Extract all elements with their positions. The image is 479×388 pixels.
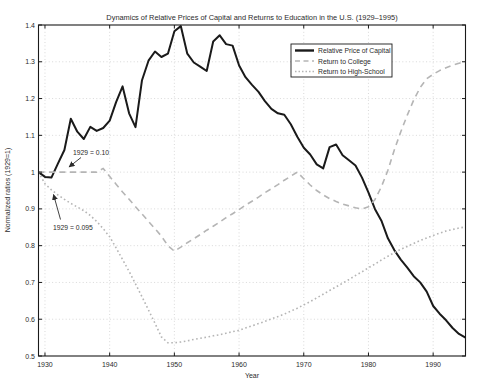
y-axis-label: Normalized ratios (1929=1) bbox=[4, 148, 12, 233]
tick-layer: 19301940195019601970198019900.50.60.70.8… bbox=[25, 22, 465, 368]
series-line-2-return-to-high-school bbox=[39, 172, 466, 343]
plot-border bbox=[39, 25, 466, 356]
y-tick-label-0.7: 0.7 bbox=[25, 279, 35, 286]
series-layer bbox=[39, 26, 466, 343]
annotation-text-college: 1929 = 0.10 bbox=[73, 149, 109, 156]
annotation-text-highschool: 1929 = 0.095 bbox=[53, 224, 93, 231]
annotation-arrow-college bbox=[69, 158, 81, 168]
grid-layer bbox=[39, 25, 466, 356]
annotation-arrow-highschool bbox=[54, 195, 61, 220]
x-tick-label-1990: 1990 bbox=[425, 361, 441, 368]
legend-label-highschool: Return to High-School bbox=[318, 68, 385, 76]
x-tick-label-1940: 1940 bbox=[102, 361, 118, 368]
x-tick-label-1930: 1930 bbox=[37, 361, 53, 368]
y-tick-label-1.3: 1.3 bbox=[25, 58, 35, 65]
x-tick-label-1970: 1970 bbox=[296, 361, 312, 368]
chart-canvas: 19301940195019601970198019900.50.60.70.8… bbox=[0, 0, 479, 388]
chart-title: Dynamics of Relative Prices of Capital a… bbox=[106, 13, 397, 22]
legend: Relative Price of Capital Return to Coll… bbox=[291, 44, 392, 77]
y-tick-label-0.5: 0.5 bbox=[25, 353, 35, 360]
y-tick-label-0.9: 0.9 bbox=[25, 205, 35, 212]
y-tick-label-1.1: 1.1 bbox=[25, 132, 35, 139]
annotation-college-1929: 1929 = 0.10 bbox=[69, 149, 109, 168]
series-line-1-return-to-college bbox=[39, 62, 466, 251]
figure: 19301940195019601970198019900.50.60.70.8… bbox=[0, 0, 479, 388]
legend-label-capital: Relative Price of Capital bbox=[318, 47, 391, 55]
series-line-0-relative-price-of-capital bbox=[39, 26, 466, 338]
y-tick-label-1.2: 1.2 bbox=[25, 95, 35, 102]
y-tick-label-0.8: 0.8 bbox=[25, 242, 35, 249]
legend-label-college: Return to College bbox=[318, 58, 371, 66]
y-tick-label-1: 1 bbox=[31, 169, 35, 176]
x-tick-label-1950: 1950 bbox=[167, 361, 183, 368]
x-axis-label: Year bbox=[245, 372, 260, 379]
y-tick-label-0.6: 0.6 bbox=[25, 316, 35, 323]
y-tick-label-1.4: 1.4 bbox=[25, 22, 35, 29]
x-tick-label-1980: 1980 bbox=[361, 361, 377, 368]
x-tick-label-1960: 1960 bbox=[231, 361, 247, 368]
annotation-highschool-1929: 1929 = 0.095 bbox=[53, 195, 93, 232]
